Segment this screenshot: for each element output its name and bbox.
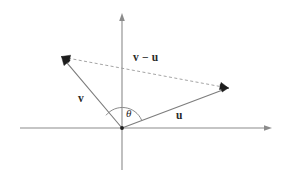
vector-u-label: u bbox=[176, 109, 183, 121]
angle-theta-arc bbox=[106, 107, 142, 120]
y-axis-arrow-icon bbox=[119, 13, 125, 21]
vector-v-label: v bbox=[78, 92, 84, 104]
vector-diagram-canvas: u v v − u θ bbox=[0, 0, 285, 181]
vector-v-minus-u-label: v − u bbox=[133, 51, 159, 63]
vector-diagram-svg: u v v − u θ bbox=[0, 0, 285, 181]
vector-v-line bbox=[66, 61, 123, 128]
origin-point bbox=[120, 126, 124, 130]
x-axis-arrow-icon bbox=[264, 125, 272, 131]
vector-v bbox=[62, 57, 123, 129]
y-axis bbox=[119, 13, 125, 170]
angle-theta-label: θ bbox=[126, 107, 132, 119]
vector-u bbox=[122, 85, 229, 128]
vector-u-line bbox=[122, 90, 224, 129]
x-axis bbox=[20, 125, 272, 131]
angle-theta-arc-path bbox=[106, 107, 142, 120]
